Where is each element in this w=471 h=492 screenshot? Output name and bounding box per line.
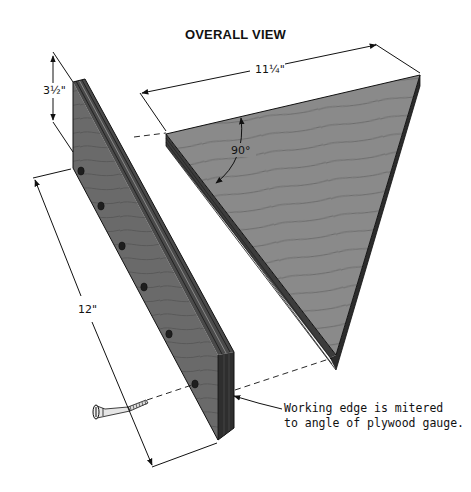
board-length-label: 12" bbox=[78, 303, 97, 316]
wood-screw-icon bbox=[93, 400, 148, 419]
board-end-face bbox=[218, 352, 234, 440]
screw-hole-icon bbox=[141, 283, 147, 291]
screw-hole-icon bbox=[119, 242, 125, 250]
callout-line-2: to angle of plywood gauge. bbox=[284, 416, 464, 430]
callout-line-1: Working edge is mitered bbox=[284, 401, 443, 415]
dimension-board-height bbox=[53, 52, 73, 152]
board-height-label: 3½" bbox=[43, 84, 66, 97]
callout-note: Working edge is mitered to angle of plyw… bbox=[284, 401, 464, 431]
screw-hole-icon bbox=[192, 380, 198, 388]
angle-label: 90° bbox=[231, 144, 251, 157]
screw-hole-icon bbox=[166, 330, 172, 338]
gauge-width-label: 11¼" bbox=[255, 63, 285, 76]
screw-hole-icon bbox=[98, 202, 104, 210]
callout-leader bbox=[234, 396, 282, 409]
screw-hole-icon bbox=[78, 167, 84, 175]
